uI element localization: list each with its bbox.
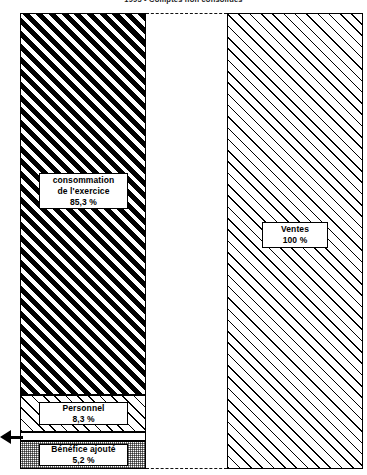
chart-canvas: 1995 - Comptes non consolidés consommati…: [0, 0, 367, 475]
label-personnel-value: 8,3 %: [72, 414, 94, 425]
connector-line-bottom: [146, 468, 227, 469]
label-personnel-line1: Personnel: [63, 403, 105, 414]
label-benefice-ajoute-value: 5,2 %: [72, 455, 94, 466]
label-benefice-ajoute-line1: Bénéfice ajouté: [51, 444, 115, 455]
label-consommation-value: 85,3 %: [70, 197, 97, 208]
label-consommation-line2: de l'exercice: [58, 186, 110, 197]
label-ventes-value: 100 %: [283, 235, 308, 246]
label-benefice-ajoute: Bénéfice ajouté 5,2 %: [39, 444, 128, 466]
arrow-head-icon: [0, 430, 11, 444]
label-consommation: consommation de l'exercice 85,3 %: [39, 173, 128, 209]
bar-segment-separator: [20, 432, 146, 441]
pointer-arrow-icon: [0, 430, 23, 444]
arrow-shaft-icon: [11, 436, 23, 439]
label-consommation-line1: consommation: [53, 175, 115, 186]
label-ventes: Ventes 100 %: [262, 222, 328, 248]
connector-line-top: [146, 13, 227, 14]
chart-title: 1995 - Comptes non consolidés: [0, 0, 367, 4]
label-personnel: Personnel 8,3 %: [39, 402, 128, 425]
label-ventes-line1: Ventes: [281, 224, 309, 235]
